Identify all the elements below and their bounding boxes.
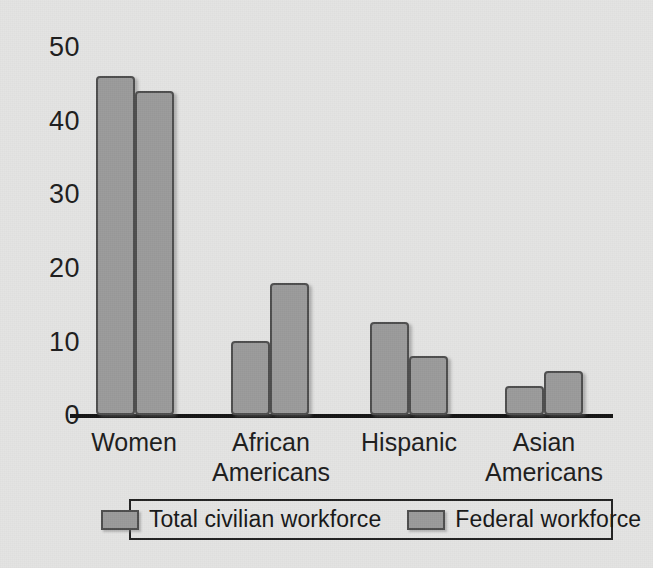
y-tick-label-40: 40 [18,108,80,135]
legend-label: Federal workforce [455,506,641,533]
bar-women-total-civilian-workforce [96,76,135,415]
y-axis: 50 40 30 20 10 0 [18,0,80,568]
legend-swatch-icon [101,510,139,530]
legend-entry-total-civilian-workforce: Total civilian workforce [101,506,381,533]
x-category-label-line: Asian [444,428,644,458]
y-tick-label-50: 50 [18,34,80,61]
chart-legend: Total civilian workforce Federal workfor… [129,499,613,540]
legend-label: Total civilian workforce [149,506,381,533]
bar-women-federal-workforce [135,91,174,415]
y-tick-label-30: 30 [18,181,80,208]
legend-swatch-icon [407,510,445,530]
bar-hispanic-total-civilian-workforce [370,322,409,415]
bar-african-americans-total-civilian-workforce [231,341,270,415]
bar-hispanic-federal-workforce [409,356,448,415]
plot-area: 50 40 30 20 10 0 Women African Americans… [0,0,653,568]
bar-asian-americans-federal-workforce [544,371,583,415]
y-tick-label-20: 20 [18,255,80,282]
bar-asian-americans-total-civilian-workforce [505,386,544,415]
bar-chart: 50 40 30 20 10 0 Women African Americans… [0,0,653,568]
y-tick-label-10: 10 [18,329,80,356]
bar-african-americans-federal-workforce [270,283,309,415]
x-category-label-asian-americans: Asian Americans [444,428,644,487]
x-category-label-line: Americans [171,458,371,488]
x-category-label-line: Americans [444,458,644,488]
legend-entry-federal-workforce: Federal workforce [407,506,641,533]
